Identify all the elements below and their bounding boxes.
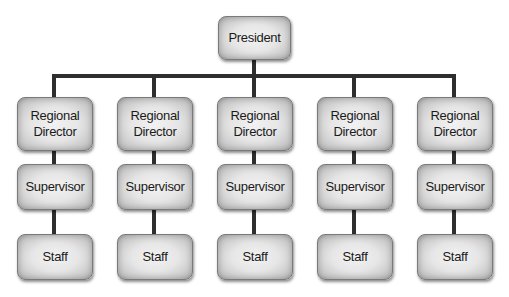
staff-node: Staff [117,234,193,280]
connector-col2-top [152,74,156,98]
node-label-line2: Director [231,124,280,140]
node-label-line1: Regional [31,108,80,124]
node-label: Supervisor [125,179,184,195]
regional-director-node: RegionalDirector [117,97,193,151]
staff-node: Staff [17,234,93,280]
connector-col1-top [52,74,56,98]
staff-node: Staff [417,234,493,280]
node-label: Staff [42,249,67,265]
node-label-line1: Regional [231,108,280,124]
president-node: President [218,16,291,60]
node-label: Supervisor [25,179,84,195]
node-label-line1: Regional [431,108,480,124]
regional-director-node: RegionalDirector [317,97,393,151]
connector-col2-bottom [152,208,156,236]
connector-col4-bottom [352,208,356,236]
regional-director-node: RegionalDirector [217,97,293,151]
node-label: Staff [442,249,467,265]
supervisor-node: Supervisor [117,164,193,210]
node-label-line2: Director [31,124,80,140]
connector-col3-top [252,74,256,98]
connector-col5-bottom [452,208,456,236]
node-label: Supervisor [325,179,384,195]
staff-node: Staff [217,234,293,280]
org-chart: President RegionalDirector Supervisor St… [0,0,509,297]
node-label: Staff [242,249,267,265]
connector-col1-bottom [52,208,56,236]
node-label-line1: Regional [131,108,180,124]
node-label-line1: Regional [331,108,380,124]
node-label: Staff [142,249,167,265]
node-label: Supervisor [425,179,484,195]
regional-director-node: RegionalDirector [417,97,493,151]
staff-node: Staff [317,234,393,280]
connector-col4-top [352,74,356,98]
supervisor-node: Supervisor [317,164,393,210]
supervisor-node: Supervisor [217,164,293,210]
node-label: Supervisor [225,179,284,195]
supervisor-node: Supervisor [417,164,493,210]
node-label-line2: Director [131,124,180,140]
president-label: President [228,30,280,46]
node-label: Staff [342,249,367,265]
connector-col3-bottom [252,208,256,236]
node-label-line2: Director [431,124,480,140]
node-label-line2: Director [331,124,380,140]
regional-director-node: RegionalDirector [17,97,93,151]
supervisor-node: Supervisor [17,164,93,210]
connector-col5-top [452,74,456,98]
